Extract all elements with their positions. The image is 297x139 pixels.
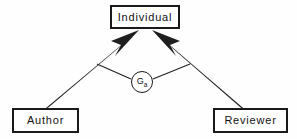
node-author-label: Author: [27, 115, 64, 126]
edge-reviewer-to-individual: [152, 30, 249, 113]
edge-ga-to-left-arrow: [97, 64, 131, 79]
edge-author-to-individual-arrowhead: [111, 30, 139, 56]
edge-reviewer-to-individual-shaft: [163, 40, 249, 113]
edge-node-ga-label-subscript: a: [144, 81, 148, 88]
node-individual[interactable]: Individual: [110, 5, 180, 29]
edge-node-ga-label-base: G: [137, 76, 144, 86]
diagram-canvas: Individual Author Reviewer Ga: [0, 0, 297, 139]
node-individual-label: Individual: [118, 12, 172, 23]
node-reviewer-label: Reviewer: [224, 115, 276, 126]
node-reviewer[interactable]: Reviewer: [213, 108, 288, 133]
edge-node-ga[interactable]: Ga: [131, 71, 153, 93]
edge-ga-to-right-arrow: [153, 64, 190, 79]
node-author[interactable]: Author: [12, 108, 79, 133]
edge-author-to-individual: [40, 30, 139, 113]
edge-reviewer-to-individual-arrowhead: [152, 30, 180, 56]
edge-author-to-individual-shaft: [40, 40, 128, 113]
edge-node-ga-label: Ga: [137, 77, 148, 86]
